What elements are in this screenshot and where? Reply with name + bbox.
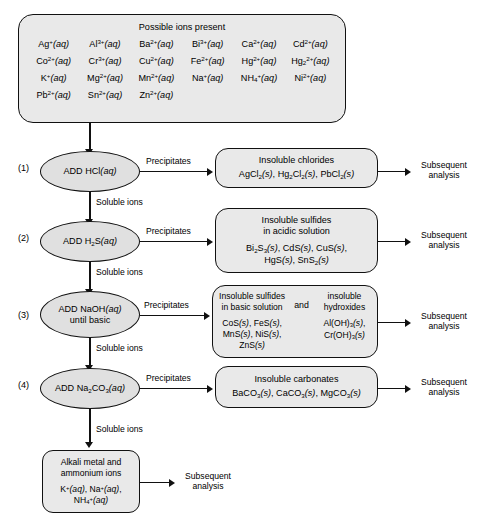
- step-3-product-box: Insoluble sulfides in basic solution CoS…: [212, 285, 378, 358]
- possible-ions-header: Possible ions present: [19, 22, 345, 34]
- ion-item: Cu2+(aq): [131, 55, 182, 67]
- arrowhead-down: [85, 442, 93, 448]
- subsequent-analysis-line1: Subsequent: [421, 311, 467, 321]
- connector-step3-to-product: [140, 315, 205, 317]
- ion-item: Ba2+(aq): [131, 38, 182, 50]
- subsequent-analysis-line1: Subsequent: [421, 377, 467, 387]
- ion-item: Pb2+(aq): [28, 89, 79, 101]
- step-number-2: (2): [18, 233, 29, 243]
- ion-item: K+(aq): [28, 72, 79, 84]
- step-3-right-formulas-line1: Al(OH)3(s),: [323, 318, 365, 330]
- subsequent-analysis-line2: analysis: [192, 481, 223, 491]
- ion-item: Sn2+(aq): [79, 89, 130, 101]
- precipitates-label-2: Precipitates: [146, 226, 191, 236]
- step-1-reagent-ellipse: ADD HCl(aq): [40, 151, 140, 192]
- step-number-4: (4): [18, 380, 29, 390]
- step-2-reagent-ellipse: ADD H2S(aq): [40, 221, 140, 262]
- step-4-reagent-ellipse: ADD Na2CO3(aq): [40, 368, 140, 409]
- precipitates-label-4: Precipitates: [146, 373, 191, 383]
- connector-step4-to-final: [89, 409, 91, 443]
- connector-product1-to-analysis: [378, 171, 406, 173]
- step-3-hydroxides-column: insoluble hydroxides Al(OH)3(s), Cr(OH)3…: [312, 291, 377, 342]
- step-2-reagent-label: ADD H2S(aq): [63, 236, 117, 247]
- arrowhead-right: [405, 385, 411, 393]
- connector-step2-to-product: [140, 241, 208, 243]
- soluble-ions-label-2: Soluble ions: [96, 267, 143, 277]
- ion-item: Na+(aq): [182, 72, 233, 84]
- step-3-right-formulas-line2: Cr(OH)3(s): [324, 330, 365, 342]
- ion-item: Zn2+(aq): [131, 89, 182, 101]
- step-number-3: (3): [18, 310, 29, 320]
- arrowhead-right: [405, 168, 411, 176]
- step-3-left-formulas-line2: MnS(s), NiS(s),: [223, 329, 282, 340]
- subsequent-analysis-4: Subsequent analysis: [413, 377, 475, 397]
- step-3-left-formulas-line1: CoS(s), FeS(s),: [222, 318, 282, 329]
- connector-product2-to-analysis: [378, 241, 406, 243]
- subsequent-analysis-line1: Subsequent: [185, 471, 231, 481]
- precipitates-label-3: Precipitates: [144, 300, 189, 310]
- step-3-sulfides-column: Insoluble sulfides in basic solution CoS…: [213, 291, 291, 351]
- step-2-product-heading-line2: in acidic solution: [263, 226, 330, 238]
- step-3-right-heading-line1: insoluble: [327, 291, 361, 302]
- final-heading-line2: ammonium ions: [61, 468, 122, 479]
- final-formulas-line1: K+(aq), Na+(aq),: [60, 484, 121, 495]
- ion-item: Cd2+(aq): [285, 38, 336, 50]
- arrowhead-right: [169, 479, 175, 487]
- connector-step4-to-product: [140, 388, 208, 390]
- ion-item: Ni2+(aq): [285, 72, 336, 84]
- soluble-ions-label-1: Soluble ions: [96, 197, 143, 207]
- step-3-and-label: and: [291, 300, 312, 311]
- final-alkali-ammonium-box: Alkali metal and ammonium ions K+(aq), N…: [42, 450, 140, 513]
- ion-item: Cr3+(aq): [79, 55, 130, 67]
- ion-item: Ca2+(aq): [233, 38, 284, 50]
- precipitates-label-1: Precipitates: [146, 156, 191, 166]
- connector-step1-to-product: [140, 171, 208, 173]
- arrowhead-right: [405, 238, 411, 246]
- ion-item: Hg2+(aq): [233, 55, 284, 67]
- step-3-left-heading-line1: Insoluble sulfides: [219, 291, 285, 302]
- subsequent-analysis-line2: analysis: [428, 321, 459, 331]
- ion-item: Hg22+(aq): [285, 55, 336, 67]
- step-2-product-box: Insoluble sulfides in acidic solution Bi…: [215, 208, 378, 273]
- step-4-product-heading: Insoluble carbonates: [255, 374, 339, 386]
- step-2-product-formulas-line2: HgS(s), SnS2(s): [264, 255, 329, 267]
- soluble-ions-label-3: Soluble ions: [96, 343, 143, 353]
- subsequent-analysis-1: Subsequent analysis: [413, 160, 475, 180]
- ion-item: Fe2+(aq): [182, 55, 233, 67]
- connector-product4-to-analysis: [378, 388, 406, 390]
- connector-step3-to-step4: [89, 338, 91, 366]
- ion-item: Co2+(aq): [28, 55, 79, 67]
- step-1-product-box: Insoluble chlorides AgCl2(s), Hg2Cl2(s),…: [215, 148, 378, 188]
- final-formulas-line2: NH4+(aq): [74, 495, 108, 507]
- step-1-product-formulas: AgCl2(s), Hg2Cl2(s), PbCl2(s): [239, 169, 354, 181]
- arrowhead-right: [207, 238, 213, 246]
- connector-product3-to-analysis: [378, 322, 406, 324]
- step-3-product-columns: Insoluble sulfides in basic solution CoS…: [213, 291, 377, 351]
- arrowhead-right: [207, 385, 213, 393]
- ion-item: NH4+(aq): [233, 72, 284, 84]
- step-3-reagent-label: ADD NaOH(aq) until basic: [58, 304, 121, 326]
- step-3-reagent-ellipse: ADD NaOH(aq) until basic: [40, 291, 140, 338]
- ion-item: Ag+(aq): [28, 38, 79, 50]
- subsequent-analysis-line2: analysis: [428, 387, 459, 397]
- subsequent-analysis-line2: analysis: [428, 170, 459, 180]
- ion-grid: Ag+(aq) Al3+(aq) Ba2+(aq) Bi3+(aq) Ca2+(…: [19, 38, 345, 108]
- step-number-1: (1): [18, 163, 29, 173]
- subsequent-analysis-3: Subsequent analysis: [413, 311, 475, 331]
- ion-item: Bi3+(aq): [182, 38, 233, 50]
- connector-final-to-analysis: [140, 482, 170, 484]
- step-1-reagent-label: ADD HCl(aq): [63, 166, 116, 177]
- connector-step2-to-step3: [89, 262, 91, 290]
- step-4-product-formulas: BaCO3(s), CaCO3(s), MgCO3(s): [232, 388, 361, 400]
- flowchart-diagram: Possible ions present Ag+(aq) Al3+(aq) B…: [0, 0, 478, 523]
- step-3-left-heading-line2: in basic solution: [222, 302, 283, 313]
- step-2-product-formulas-line1: Bi2S3(s), CdS(s), CuS(s),: [246, 243, 347, 255]
- arrowhead-right: [405, 319, 411, 327]
- step-1-product-heading: Insoluble chlorides: [259, 155, 334, 167]
- subsequent-analysis-final: Subsequent analysis: [177, 471, 239, 491]
- step-4-product-box: Insoluble carbonates BaCO3(s), CaCO3(s),…: [215, 366, 378, 408]
- ion-item: Mg2+(aq): [79, 72, 130, 84]
- arrowhead-right: [204, 312, 210, 320]
- step-3-left-formulas-line3: ZnS(s): [239, 340, 265, 351]
- subsequent-analysis-line2: analysis: [428, 240, 459, 250]
